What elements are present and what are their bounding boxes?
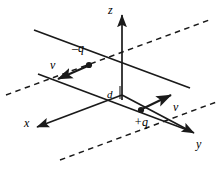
axis-label-z: z: [108, 4, 113, 16]
trajectory-line-negative: [34, 30, 190, 88]
axis-label-y: y: [196, 138, 201, 150]
physics-diagram-figure: z x y –q +q v v d: [0, 0, 223, 170]
velocity-label-negative: v: [50, 59, 55, 71]
charge-label-positive: +q: [134, 116, 148, 128]
velocity-label-positive: v: [173, 101, 178, 113]
charge-dot-positive: [138, 107, 144, 113]
charge-dot-negative: [86, 62, 92, 68]
charge-label-negative: –q: [72, 42, 84, 54]
velocity-arrow-negative: [58, 65, 90, 79]
axis-label-x: x: [24, 117, 29, 129]
diagram-canvas: [0, 0, 223, 170]
trajectory-line-positive: [38, 74, 190, 131]
velocity-arrow-positive: [140, 95, 171, 110]
separation-label-d: d: [107, 89, 113, 100]
